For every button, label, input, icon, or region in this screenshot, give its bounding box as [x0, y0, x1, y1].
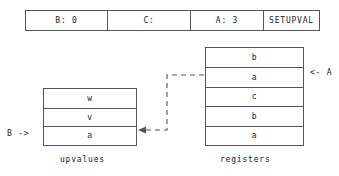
registers-row-value: a [252, 126, 258, 145]
upvalues-stack: w v a [43, 88, 137, 146]
upvalues-row: w [44, 89, 136, 108]
registers-row-value: c [252, 87, 258, 106]
registers-row-value: a [252, 68, 258, 87]
registers-caption: registers [220, 155, 271, 164]
registers-row-value: b [252, 107, 258, 126]
upvalues-row-value: v [87, 108, 93, 127]
instruction-opcode-label: SETUPVAL [269, 16, 314, 25]
registers-row: b [206, 48, 303, 67]
instruction-field-a: A: 3 [190, 11, 263, 30]
instruction-field-a-label: A: 3 [216, 16, 238, 25]
pointer-label-b: B -> [7, 129, 29, 138]
registers-row: c [206, 87, 303, 106]
registers-row: b [206, 106, 303, 125]
upvalues-row-value: w [87, 89, 93, 108]
diagram-canvas: B: 0 C: A: 3 SETUPVAL w v a upvalues B -… [0, 0, 339, 176]
instruction-field-c-label: C: [143, 16, 154, 25]
pointer-label-a: <- A [310, 68, 332, 77]
registers-row: a [206, 126, 303, 145]
upvalues-row-value: a [87, 126, 93, 145]
instruction-opcode: SETUPVAL [263, 11, 319, 30]
registers-row-value: b [252, 48, 258, 67]
instruction-bar: B: 0 C: A: 3 SETUPVAL [25, 10, 320, 31]
instruction-field-b-label: B: 0 [55, 16, 77, 25]
upvalues-caption: upvalues [60, 155, 105, 164]
instruction-field-c: C: [107, 11, 190, 30]
registers-stack: b a c b a [205, 47, 304, 146]
upvalues-row: a [44, 126, 136, 145]
upvalues-row: v [44, 108, 136, 127]
instruction-field-b: B: 0 [26, 11, 107, 30]
registers-row: a [206, 67, 303, 86]
